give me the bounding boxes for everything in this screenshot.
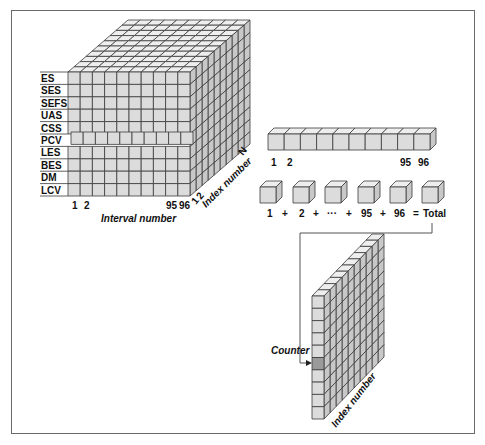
cube-recessed-cell <box>95 132 107 144</box>
cube-front-cell <box>92 109 104 121</box>
interval-axis-label: Interval number <box>101 213 177 224</box>
counter-wall <box>312 234 384 419</box>
cube-front-cell <box>92 84 104 96</box>
cube-front-cell <box>117 72 129 84</box>
cube-front-cell <box>166 146 178 158</box>
cube-recessed-cell <box>169 132 181 144</box>
row-tick-2: 2 <box>287 157 293 168</box>
cube-front-cell <box>166 72 178 84</box>
row-label-les: LES <box>41 147 61 158</box>
cube-front-cell <box>141 146 153 158</box>
interval-cell <box>349 134 365 150</box>
row-label-uas: UAS <box>41 110 62 121</box>
interval-tick-95: 95 <box>166 200 178 211</box>
cube-front-cell <box>141 84 153 96</box>
cube-front-cell <box>178 84 190 96</box>
eq-ellipsis: ··· <box>327 208 337 219</box>
cube-front-cell <box>68 97 80 109</box>
cube-front-cell <box>105 159 117 171</box>
wall-front-cell <box>312 394 324 406</box>
row-label-lcv: LCV <box>41 185 61 196</box>
cube-front-cell <box>141 109 153 121</box>
cube-front-cell <box>68 146 80 158</box>
row-label-css: CSS <box>41 123 62 134</box>
cube-front-cell <box>117 84 129 96</box>
cube-front-cell <box>153 184 165 196</box>
sum-cube <box>293 187 309 203</box>
cube-recessed-cell <box>181 132 193 144</box>
cube-front-cell <box>105 72 117 84</box>
cube-front-cell <box>117 184 129 196</box>
eq-plus: + <box>313 208 319 219</box>
cube-front-cell <box>141 72 153 84</box>
cube-front-cell <box>166 159 178 171</box>
counter-cell-highlighted <box>312 358 324 370</box>
row-label-es: ES <box>41 73 55 84</box>
cube-front-cell <box>178 159 190 171</box>
cube-front-cell <box>166 184 178 196</box>
eq-equals: = <box>413 208 419 219</box>
interval-cell <box>333 134 349 150</box>
total-cube <box>422 187 438 203</box>
cube-front-cell <box>129 171 141 183</box>
cube-front-cell <box>80 97 92 109</box>
cube-front-cell <box>68 109 80 121</box>
cube-front-cell <box>68 72 80 84</box>
sum-cube <box>390 187 406 203</box>
cube-front-cell <box>80 109 92 121</box>
counter-label: Counter <box>271 345 310 356</box>
sum-cube <box>358 187 374 203</box>
row-tick-95: 95 <box>400 157 412 168</box>
cube-front-cell <box>178 72 190 84</box>
interval-cell <box>317 134 333 150</box>
cube-front-cell <box>178 146 190 158</box>
interval-cell <box>268 134 284 150</box>
row-tick-96: 96 <box>418 157 430 168</box>
wall-front-cell <box>312 345 324 357</box>
eq-term-2: 2 <box>299 208 305 219</box>
cube-recessed-cell <box>83 132 95 144</box>
cube-recessed-cell <box>120 132 132 144</box>
eq-term-1: 1 <box>267 208 273 219</box>
cube-front-cell <box>117 97 129 109</box>
cube-front-cell <box>68 184 80 196</box>
interval-cell <box>398 134 414 150</box>
eq-term-96: 96 <box>394 208 406 219</box>
cube-front-cell <box>129 184 141 196</box>
cube-front-cell <box>80 146 92 158</box>
sum-cube <box>260 187 276 203</box>
cube-front-cell <box>92 97 104 109</box>
cube-front-cell <box>105 97 117 109</box>
cube-front-cell <box>141 171 153 183</box>
row-label-bes: BES <box>41 160 62 171</box>
cube-front-cell <box>141 159 153 171</box>
cube-front-cell <box>129 97 141 109</box>
cube-front-cell <box>92 72 104 84</box>
cube-front-cell <box>92 146 104 158</box>
cube-front-cell <box>178 109 190 121</box>
cube-front-cell <box>80 171 92 183</box>
performance-data-cube-diagram: ESSESSEFSUASCSSPCVLESBESDMLCV 1 2 95 96 … <box>0 0 485 445</box>
cube-front-cell <box>153 159 165 171</box>
cube-front-cell <box>129 72 141 84</box>
cube-front-cell <box>105 184 117 196</box>
cube-front-cell <box>166 109 178 121</box>
interval-tick-96: 96 <box>179 200 191 211</box>
cube-front-cell <box>141 184 153 196</box>
cube-recessed-cell <box>71 132 83 144</box>
eq-term-95: 95 <box>361 208 373 219</box>
cube-front-cell <box>178 97 190 109</box>
cube-front-cell <box>129 84 141 96</box>
cube-front-cell <box>153 84 165 96</box>
interval-cell <box>300 134 316 150</box>
cube-front-cell <box>129 159 141 171</box>
cube-recessed-cell <box>144 132 156 144</box>
interval-row <box>268 128 436 150</box>
cube-front-cell <box>129 109 141 121</box>
row-label-sefs: SEFS <box>41 98 67 109</box>
cube-front-cell <box>92 171 104 183</box>
cube-front-cell <box>166 171 178 183</box>
row-label-pcv: PCV <box>41 135 62 146</box>
cube-recessed-cell <box>132 132 144 144</box>
cube-front-cell <box>80 159 92 171</box>
